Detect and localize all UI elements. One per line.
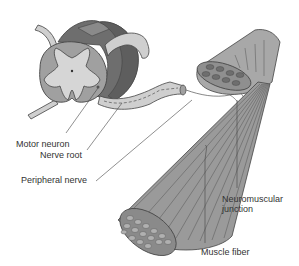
label-neuromuscular-junction: Neuromuscular junction: [222, 194, 283, 214]
leader-nerve-root: [87, 103, 122, 150]
label-nmj-line2: junction: [222, 204, 283, 214]
label-nerve-root: Nerve root: [40, 150, 82, 160]
label-nmj-line1: Neuromuscular: [222, 194, 283, 204]
motor-unit-diagram: [0, 0, 299, 266]
ventral-root-left: [28, 100, 58, 119]
label-peripheral-nerve: Peripheral nerve: [21, 175, 87, 185]
label-motor-neuron: Motor neuron: [16, 139, 70, 149]
label-muscle-fiber: Muscle fiber: [201, 247, 250, 257]
central-canal: [71, 70, 73, 72]
nerve-cut-end: [180, 85, 186, 95]
